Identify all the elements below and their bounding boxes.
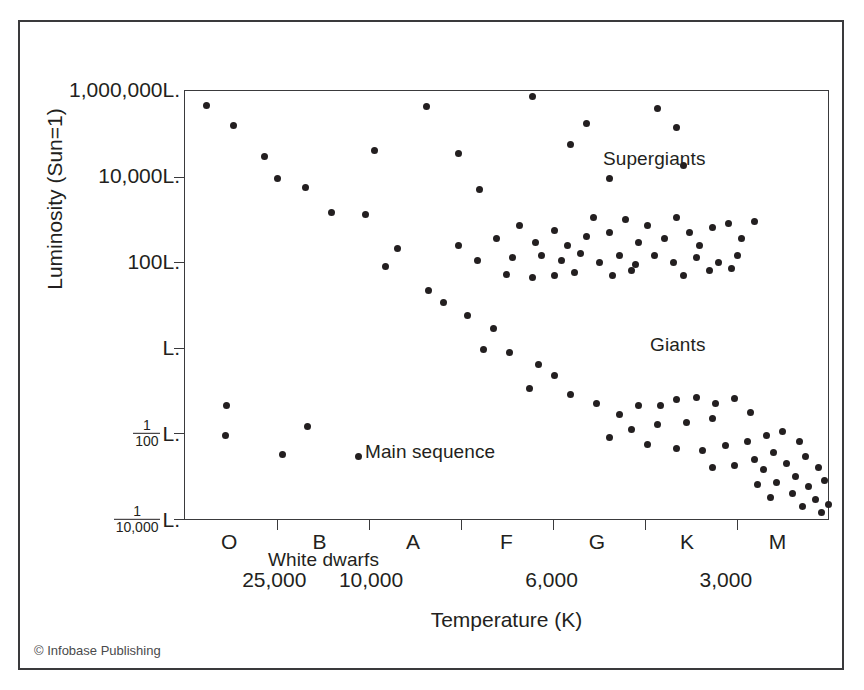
data-point xyxy=(464,312,471,319)
x-axis-class-labels: OBAFGKM xyxy=(184,530,829,560)
data-points-layer xyxy=(185,91,828,519)
data-point xyxy=(770,449,777,456)
data-point xyxy=(815,464,822,471)
data-point xyxy=(632,261,639,268)
data-point xyxy=(699,447,706,454)
data-point xyxy=(706,267,713,274)
data-point xyxy=(230,122,237,129)
data-point xyxy=(362,211,369,218)
data-point xyxy=(686,229,693,236)
data-point xyxy=(805,483,812,490)
data-point xyxy=(583,233,590,240)
data-point xyxy=(571,269,578,276)
x-axis-temperature-label: 3,000 xyxy=(700,568,753,592)
data-point xyxy=(506,349,513,356)
data-point xyxy=(222,432,229,439)
x-axis-tick xyxy=(553,519,554,530)
data-point xyxy=(223,402,230,409)
data-point xyxy=(535,361,542,368)
x-axis-temperature-label: 25,000 xyxy=(242,568,306,592)
data-point xyxy=(767,494,774,501)
data-point xyxy=(744,438,751,445)
data-point xyxy=(657,402,664,409)
data-point xyxy=(712,400,719,407)
data-point xyxy=(394,245,401,252)
data-point xyxy=(490,325,497,332)
data-point xyxy=(715,259,722,266)
data-point xyxy=(606,229,613,236)
data-point xyxy=(503,271,510,278)
data-point xyxy=(754,481,761,488)
x-axis-tick xyxy=(737,519,738,530)
data-point xyxy=(279,451,286,458)
fraction: 1100 xyxy=(133,418,160,448)
data-point xyxy=(802,453,809,460)
data-point xyxy=(526,385,533,392)
fraction: 110,000 xyxy=(114,504,161,534)
y-axis-tick-label: 1,000,000L. xyxy=(69,78,180,102)
x-axis-class-label: F xyxy=(500,530,513,554)
data-point xyxy=(738,235,745,242)
data-point xyxy=(583,120,590,127)
data-point xyxy=(355,453,362,460)
x-axis-tick xyxy=(277,519,278,530)
data-point xyxy=(577,250,584,257)
data-point xyxy=(635,239,642,246)
data-point xyxy=(821,477,828,484)
data-point xyxy=(751,218,758,225)
data-point xyxy=(792,473,799,480)
data-point xyxy=(812,496,819,503)
data-point xyxy=(661,235,668,242)
data-point xyxy=(728,265,735,272)
data-point xyxy=(382,263,389,270)
data-point xyxy=(474,257,481,264)
data-point xyxy=(558,257,565,264)
data-point xyxy=(783,460,790,467)
data-point xyxy=(628,267,635,274)
x-axis-class-label: O xyxy=(221,530,237,554)
data-point xyxy=(328,209,335,216)
data-point xyxy=(696,242,703,249)
data-point xyxy=(567,141,574,148)
data-point xyxy=(274,175,281,182)
cluster-label-supergiants: Supergiants xyxy=(603,148,706,170)
data-point xyxy=(606,175,613,182)
x-axis-class-label: K xyxy=(680,530,694,554)
x-axis-class-label: A xyxy=(406,530,420,554)
x-axis-tick xyxy=(645,519,646,530)
data-point xyxy=(654,105,661,112)
data-point xyxy=(644,441,651,448)
data-point xyxy=(773,479,780,486)
data-point xyxy=(493,235,500,242)
y-axis-tick-label: 100L. xyxy=(127,250,180,274)
data-point xyxy=(673,214,680,221)
data-point xyxy=(725,220,732,227)
x-axis-class-label: B xyxy=(312,530,326,554)
data-point xyxy=(818,509,825,516)
data-point xyxy=(371,147,378,154)
data-point xyxy=(551,227,558,234)
data-point xyxy=(670,259,677,266)
data-point xyxy=(673,445,680,452)
data-point xyxy=(532,239,539,246)
data-point xyxy=(779,428,786,435)
cluster-label-main-sequence: Main sequence xyxy=(365,441,495,463)
data-point xyxy=(509,254,516,261)
data-point xyxy=(760,466,767,473)
data-point xyxy=(529,93,536,100)
data-point xyxy=(616,411,623,418)
data-point xyxy=(628,426,635,433)
data-point xyxy=(261,153,268,160)
data-point xyxy=(480,346,487,353)
data-point xyxy=(622,216,629,223)
x-axis-temperature-labels: 25,00010,0006,0003,000 xyxy=(184,568,829,596)
data-point xyxy=(476,186,483,193)
data-point xyxy=(673,124,680,131)
x-axis-temperature-label: 10,000 xyxy=(339,568,403,592)
x-axis-tick xyxy=(369,519,370,530)
y-axis-tick xyxy=(174,177,185,178)
x-axis-temperature-label: 6,000 xyxy=(525,568,578,592)
data-point xyxy=(304,423,311,430)
data-point xyxy=(606,434,613,441)
data-point xyxy=(709,464,716,471)
